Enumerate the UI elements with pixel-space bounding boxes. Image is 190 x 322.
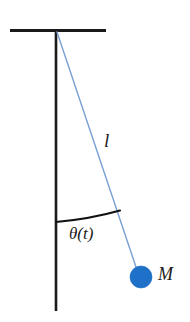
- filled-circle-icon: [130, 266, 152, 288]
- mass-label: M: [158, 265, 173, 283]
- angle-label: θ(t): [69, 225, 93, 242]
- angle-arc-icon: [56, 211, 120, 223]
- length-label: l: [104, 131, 109, 150]
- pendulum-figure: l θ(t) M: [0, 0, 190, 322]
